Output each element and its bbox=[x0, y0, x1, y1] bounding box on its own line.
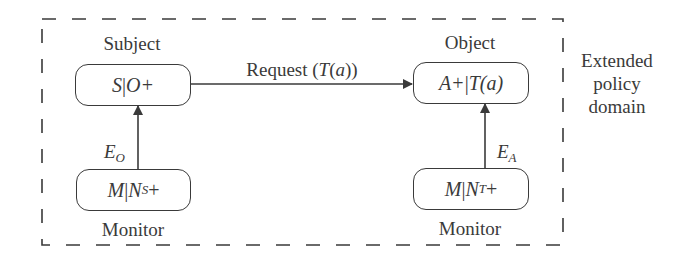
eo-label: EO bbox=[104, 142, 125, 164]
request-label-prefix: Request ( bbox=[246, 59, 318, 80]
monitor-left-rest: N bbox=[128, 179, 141, 202]
monitor-right-sub: T bbox=[479, 181, 486, 197]
monitor-left-title: Monitor bbox=[102, 220, 164, 239]
ea-label: EA bbox=[497, 142, 517, 164]
ea-label-sub: A bbox=[509, 150, 517, 165]
monitor-right-node: M | NT+ bbox=[413, 168, 529, 210]
monitor-right-main: M bbox=[445, 178, 462, 201]
request-label-suffix: )) bbox=[345, 59, 358, 80]
policy-domain-label-line-3: domain bbox=[581, 95, 653, 118]
ea-label-main: E bbox=[497, 141, 509, 162]
object-node: A+ | T(a) bbox=[413, 62, 529, 104]
request-label-t: T bbox=[319, 59, 330, 80]
policy-domain-label-line-1: Extended bbox=[581, 49, 653, 72]
monitor-right-rest: N bbox=[465, 178, 478, 201]
request-label-arg: a bbox=[336, 59, 346, 80]
subject-main: S bbox=[112, 74, 122, 97]
monitor-right-suffix: + bbox=[486, 178, 497, 201]
subject-title: Subject bbox=[104, 34, 161, 53]
policy-domain-label: Extended policy domain bbox=[581, 49, 653, 118]
subject-node: S | O+ bbox=[75, 64, 191, 106]
eo-label-sub: O bbox=[116, 150, 125, 165]
monitor-left-suffix: + bbox=[148, 179, 159, 202]
request-label: Request (T(a)) bbox=[246, 60, 357, 79]
eo-label-main: E bbox=[104, 141, 116, 162]
monitor-left-main: M bbox=[108, 179, 125, 202]
object-main: A+ bbox=[439, 72, 465, 95]
subject-rest: O+ bbox=[126, 74, 154, 97]
monitor-left-node: M| NS+ bbox=[76, 169, 191, 211]
monitor-right-title: Monitor bbox=[439, 219, 501, 238]
object-title: Object bbox=[445, 33, 496, 52]
object-rest: T(a) bbox=[469, 72, 503, 95]
policy-domain-label-line-2: policy bbox=[581, 72, 653, 95]
